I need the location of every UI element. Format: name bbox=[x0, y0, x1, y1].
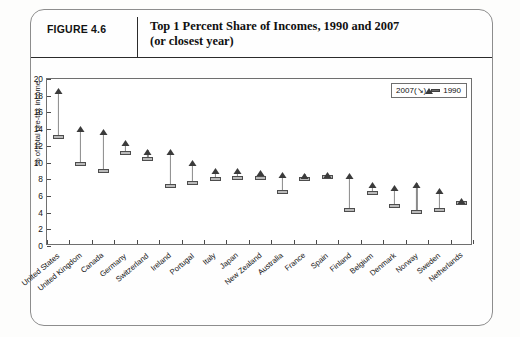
dash-icon bbox=[232, 176, 243, 180]
figure-page: FIGURE 4.6 Top 1 Percent Share of Income… bbox=[0, 0, 520, 337]
y-tick-label-0: 0 bbox=[38, 241, 43, 251]
legend-item-2007: 2007(↘) bbox=[396, 86, 426, 95]
triangle-up-icon bbox=[189, 160, 197, 166]
dash-icon bbox=[120, 151, 131, 155]
triangle-up-icon bbox=[211, 168, 219, 174]
dash-icon bbox=[98, 169, 109, 173]
connector-line bbox=[80, 127, 81, 165]
figure-number-label: FIGURE 4.6 bbox=[47, 23, 106, 35]
x-tick-label: Spain bbox=[309, 251, 330, 271]
triangle-up-icon bbox=[425, 88, 433, 94]
triangle-up-icon bbox=[166, 149, 174, 155]
triangle-up-icon bbox=[278, 172, 286, 178]
figure-header: FIGURE 4.6 Top 1 Percent Share of Income… bbox=[31, 16, 492, 58]
legend-label-2007: 2007(↘) bbox=[396, 86, 426, 95]
dash-icon bbox=[411, 210, 422, 214]
y-tick-label-14: 14 bbox=[34, 124, 43, 134]
triangle-up-icon bbox=[99, 129, 107, 135]
legend-item-1990: 1990 bbox=[431, 86, 461, 95]
figure-title-line-1: Top 1 Percent Share of Incomes, 1990 and… bbox=[150, 19, 399, 34]
x-axis-labels: United StatesUnited KingdomCanadaGermany… bbox=[46, 247, 476, 327]
y-tick-label-8: 8 bbox=[38, 174, 43, 184]
legend-label-1990: 1990 bbox=[443, 86, 461, 95]
dash-icon bbox=[210, 177, 221, 181]
data-point-group bbox=[416, 79, 417, 246]
data-point-group bbox=[237, 79, 238, 246]
x-tick-label: Portugal bbox=[168, 251, 196, 276]
triangle-up-icon bbox=[54, 88, 62, 94]
dash-icon bbox=[434, 208, 445, 212]
dash-icon bbox=[344, 208, 355, 212]
data-point-group bbox=[439, 79, 440, 246]
header-vertical-divider bbox=[137, 17, 138, 57]
data-point-group bbox=[125, 79, 126, 246]
figure-title: Top 1 Percent Share of Incomes, 1990 and… bbox=[150, 19, 399, 48]
dash-icon bbox=[142, 157, 153, 161]
data-series-layer bbox=[47, 79, 471, 244]
y-tick-label-18: 18 bbox=[34, 91, 43, 101]
dash-icon bbox=[75, 162, 86, 166]
data-point-group bbox=[103, 79, 104, 246]
connector-line bbox=[170, 150, 171, 186]
connector-line bbox=[102, 130, 103, 171]
data-point-group bbox=[394, 79, 395, 246]
triangle-up-icon bbox=[391, 185, 399, 191]
y-tick-label-16: 16 bbox=[34, 107, 43, 117]
data-point-group bbox=[192, 79, 193, 246]
connector-line bbox=[58, 89, 59, 137]
dash-icon bbox=[165, 184, 176, 188]
y-tick-label-2: 2 bbox=[38, 224, 43, 234]
figure-title-line-2: (or closest year) bbox=[150, 34, 399, 49]
triangle-up-icon bbox=[234, 168, 242, 174]
x-tick-label: Italy bbox=[201, 251, 218, 267]
x-tick-mark bbox=[473, 240, 474, 244]
data-point-group bbox=[327, 79, 328, 246]
dash-icon bbox=[255, 176, 266, 180]
data-point-group bbox=[349, 79, 350, 246]
y-tick-label-6: 6 bbox=[38, 191, 43, 201]
y-tick-label-4: 4 bbox=[38, 208, 43, 218]
data-point-group bbox=[260, 79, 261, 246]
triangle-up-icon bbox=[458, 198, 466, 204]
data-point-group bbox=[282, 79, 283, 246]
triangle-up-icon bbox=[413, 182, 421, 188]
plot-area: % of total pre-tax income 02468101214161… bbox=[46, 78, 472, 245]
data-point-group bbox=[80, 79, 81, 246]
data-point-group bbox=[170, 79, 171, 246]
connector-line bbox=[349, 174, 350, 210]
triangle-up-icon bbox=[323, 172, 331, 178]
data-point-group bbox=[147, 79, 148, 246]
triangle-up-icon bbox=[77, 126, 85, 132]
y-tick-label-20: 20 bbox=[34, 74, 43, 84]
triangle-up-icon bbox=[144, 149, 152, 155]
header-horizontal-divider bbox=[31, 57, 492, 58]
data-point-group bbox=[372, 79, 373, 246]
triangle-up-icon bbox=[368, 182, 376, 188]
triangle-up-icon bbox=[435, 188, 443, 194]
x-tick-label: France bbox=[283, 251, 307, 273]
y-tick-label-12: 12 bbox=[34, 141, 43, 151]
dash-icon bbox=[367, 191, 378, 195]
y-tick-label-10: 10 bbox=[34, 158, 43, 168]
data-point-group bbox=[58, 79, 59, 246]
dash-icon bbox=[187, 181, 198, 185]
triangle-up-icon bbox=[256, 170, 264, 176]
data-point-group bbox=[461, 79, 462, 246]
data-point-group bbox=[215, 79, 216, 246]
dash-icon bbox=[389, 204, 400, 208]
chart-legend: 2007(↘) 1990 bbox=[391, 83, 467, 98]
triangle-up-icon bbox=[346, 173, 354, 179]
triangle-up-icon bbox=[121, 140, 129, 146]
dash-icon bbox=[277, 190, 288, 194]
triangle-up-icon bbox=[301, 173, 309, 179]
data-point-group bbox=[304, 79, 305, 246]
dash-icon bbox=[53, 135, 64, 139]
